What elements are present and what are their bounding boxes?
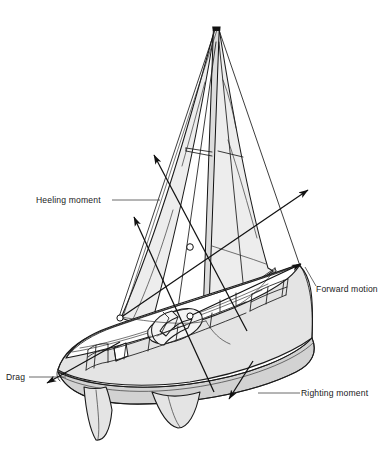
force-hub-bow bbox=[117, 315, 123, 321]
sailboat-force-diagram: Heeling moment Forward motion Drag Right… bbox=[0, 0, 389, 462]
label-heeling-moment: Heeling moment bbox=[36, 195, 101, 205]
label-forward-motion: Forward motion bbox=[316, 284, 378, 294]
label-righting-moment: Righting moment bbox=[301, 388, 369, 398]
force-hub-sail bbox=[187, 244, 194, 251]
label-drag: Drag bbox=[6, 372, 25, 382]
force-hub-deck bbox=[187, 313, 193, 319]
diagram-canvas: Heeling moment Forward motion Drag Right… bbox=[0, 0, 389, 462]
